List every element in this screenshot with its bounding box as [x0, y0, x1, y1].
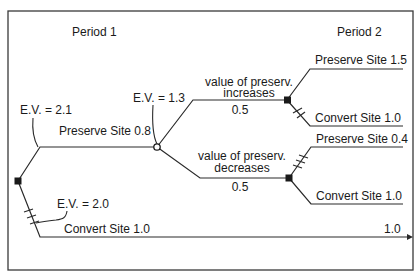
decision-tree-diagram: Period 1 Period 2 Preserve Site 0.8 Conv… [0, 0, 419, 276]
increase-probability: 0.5 [232, 103, 249, 117]
branch-dec-preserve [289, 147, 403, 178]
period-2-label: Period 2 [337, 25, 382, 39]
ev-callout-line [153, 105, 157, 144]
ev-chance-node: E.V. = 1.3 [133, 91, 185, 105]
branch-value-increases [157, 100, 287, 147]
branch-inc-preserve [287, 69, 403, 100]
chance-node [154, 144, 160, 150]
inc-convert-label: Convert Site 1.0 [315, 111, 401, 125]
root-decision-node [15, 178, 22, 185]
hash-mark-icon [24, 209, 33, 212]
decision-node-increase [284, 97, 291, 104]
arrow-head-icon [407, 234, 413, 240]
preserve-site-p1-label: Preserve Site 0.8 [59, 124, 151, 138]
ev-callout-line [33, 118, 38, 147]
period-1-label: Period 1 [72, 25, 117, 39]
ev-callout-line [36, 211, 67, 223]
branch-preserve-period1 [18, 147, 157, 181]
dec-convert-label: Convert Site 1.0 [316, 189, 402, 203]
decrease-label-line2: decreases [214, 161, 269, 175]
dec-preserve-label: Preserve Site 0.4 [316, 132, 408, 146]
increase-label-line2: increases [223, 86, 274, 100]
ev-root-convert: E.V. = 2.0 [57, 197, 109, 211]
inc-preserve-label: Preserve Site 1.5 [315, 53, 407, 67]
convert-site-p1-label: Convert Site 1.0 [64, 222, 150, 236]
ev-root-preserve: E.V. = 2.1 [20, 103, 72, 117]
decision-node-decrease [286, 175, 293, 182]
convert-site-p1-payoff: 1.0 [384, 222, 401, 236]
decrease-probability: 0.5 [232, 180, 249, 194]
